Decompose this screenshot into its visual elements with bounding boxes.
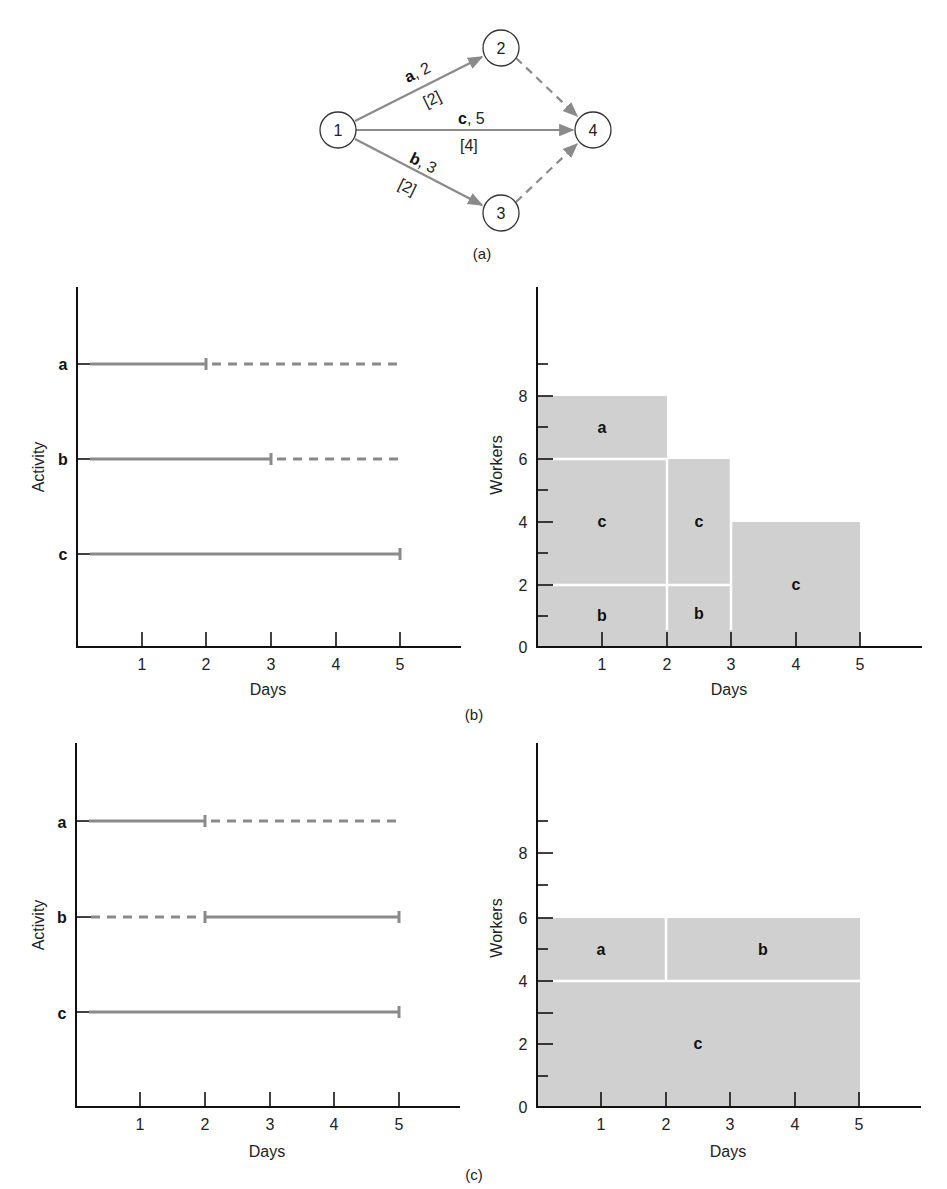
row-label-a: a	[59, 356, 68, 373]
edge-a-label: a, 2	[402, 59, 434, 86]
x-axis-label: Days	[710, 1143, 746, 1160]
svg-text:b, 3: b, 3	[407, 149, 439, 176]
svg-text:5: 5	[396, 656, 405, 673]
x-tick-labels: 1 2 3 4 5	[136, 1116, 404, 1133]
svg-text:2: 2	[202, 656, 211, 673]
svg-text:2: 2	[201, 1116, 210, 1133]
svg-text:8: 8	[519, 388, 528, 405]
block-label-c: c	[598, 513, 607, 530]
svg-text:1: 1	[598, 656, 607, 673]
svg-text:1: 1	[136, 1116, 145, 1133]
svg-text:4: 4	[792, 656, 801, 673]
svg-text:2: 2	[662, 1116, 671, 1133]
edge-b-label: b, 3	[407, 149, 439, 176]
svg-text:5: 5	[395, 1116, 404, 1133]
node-2-label: 2	[497, 40, 506, 57]
node-2: 2	[483, 30, 519, 66]
x-tick-labels: 1 2 3 4 5	[598, 656, 865, 673]
block-day0-5	[538, 918, 860, 1107]
y-axis-label: Activity	[30, 900, 47, 951]
row-label-c: c	[59, 546, 68, 563]
dummy-edge-3-4	[516, 144, 577, 202]
x-ticks	[140, 1092, 399, 1107]
svg-text:3: 3	[267, 656, 276, 673]
y-axis-label: Activity	[30, 442, 47, 493]
row-label-a: a	[58, 814, 67, 831]
node-3-label: 3	[497, 205, 506, 222]
gantt-chart-b: 1 2 3 4 5 Days Activity a b c	[30, 287, 461, 698]
svg-text:4: 4	[330, 1116, 339, 1133]
row-label-b: b	[57, 909, 67, 926]
caption-a: (a)	[473, 245, 491, 262]
svg-text:4: 4	[791, 1116, 800, 1133]
svg-text:3: 3	[726, 1116, 735, 1133]
block-label-c: c	[695, 513, 704, 530]
dummy-edge-2-4	[516, 58, 577, 116]
svg-text:6: 6	[519, 451, 528, 468]
edge-b-workers: [2]	[396, 175, 419, 198]
x-ticks	[142, 632, 400, 647]
gantt-chart-c: 1 2 3 4 5 Days Activity a b c	[30, 743, 460, 1160]
svg-text:1: 1	[597, 1116, 606, 1133]
row-label-b: b	[58, 451, 68, 468]
svg-text:2: 2	[663, 656, 672, 673]
y-axis-label: Workers	[488, 435, 505, 494]
svg-text:4: 4	[519, 514, 528, 531]
svg-text:3: 3	[727, 656, 736, 673]
block-label-c: c	[694, 1035, 703, 1052]
node-4-label: 4	[589, 122, 598, 139]
svg-text:[2]: [2]	[396, 175, 419, 198]
node-4: 4	[575, 112, 611, 148]
svg-text:1: 1	[138, 656, 147, 673]
edge-c-label: c, 5	[458, 110, 485, 127]
x-axis-label: Days	[711, 681, 747, 698]
x-tick-labels: 1 2 3 4 5	[597, 1116, 864, 1133]
x-axis-label: Days	[250, 681, 286, 698]
x-tick-labels: 1 2 3 4 5	[138, 656, 405, 673]
edge-a-workers: [2]	[420, 87, 443, 110]
caption-b: (b)	[465, 706, 483, 723]
y-tick-labels: 0 2 4 6 8	[519, 845, 528, 1116]
caption-c: (c)	[465, 1166, 483, 1183]
svg-text:[2]: [2]	[420, 87, 443, 110]
svg-text:8: 8	[519, 845, 528, 862]
node-3: 3	[483, 195, 519, 231]
block-label-b: b	[694, 605, 704, 622]
svg-text:5: 5	[856, 656, 865, 673]
edge-c-workers: [4]	[460, 137, 478, 154]
resource-histogram-b: 0 2 4 6 8 1 2 3 4 5 Days Workers a c b c…	[488, 287, 922, 698]
svg-text:2: 2	[519, 577, 528, 594]
y-tick-labels: 0 2 4 6 8	[519, 388, 528, 656]
svg-text:0: 0	[519, 639, 528, 656]
svg-text:5: 5	[855, 1116, 864, 1133]
block-label-b: b	[758, 941, 768, 958]
svg-text:6: 6	[519, 910, 528, 927]
x-axis-label: Days	[249, 1143, 285, 1160]
resource-histogram-c: 0 2 4 6 8 1 2 3 4 5 Days Workers a b c	[488, 743, 921, 1160]
node-1: 1	[320, 112, 356, 148]
svg-text:4: 4	[332, 656, 341, 673]
block-label-a: a	[598, 419, 607, 436]
y-axis-label: Workers	[488, 898, 505, 957]
node-1-label: 1	[334, 122, 343, 139]
block-label-b: b	[597, 607, 607, 624]
svg-text:a, 2: a, 2	[402, 59, 434, 86]
svg-text:0: 0	[519, 1099, 528, 1116]
svg-text:4: 4	[519, 973, 528, 990]
svg-text:2: 2	[519, 1036, 528, 1053]
network-diagram: 1 2 3 4 a, 2 [2] c, 5 [4] b, 3 [2] (a)	[320, 30, 611, 262]
block-label-c: c	[792, 576, 801, 593]
figure-canvas: 1 2 3 4 a, 2 [2] c, 5 [4] b, 3 [2] (a)	[0, 0, 947, 1189]
svg-text:3: 3	[266, 1116, 275, 1133]
row-label-c: c	[58, 1005, 67, 1022]
block-label-a: a	[597, 941, 606, 958]
